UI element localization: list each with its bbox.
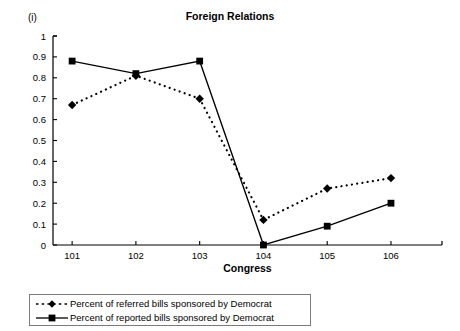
x-axis-title: Congress — [53, 262, 442, 274]
x-axis-ticks: 101102103104105106 — [64, 241, 399, 261]
y-tick-label: 0.8 — [33, 72, 46, 83]
y-tick-label: 0.1 — [33, 219, 46, 230]
x-tick-label: 105 — [319, 250, 335, 261]
data-point-square — [69, 58, 76, 65]
data-series-layer — [68, 58, 395, 249]
x-tick-label: 103 — [192, 250, 208, 261]
y-tick-label: 0.7 — [33, 93, 46, 104]
data-point-diamond — [195, 95, 203, 103]
chart-page: (i) Foreign Relations 00.10.20.30.40.50.… — [0, 0, 460, 331]
data-point-square — [133, 70, 140, 77]
series-line-2 — [72, 61, 391, 245]
data-point-square — [324, 223, 331, 230]
y-tick-label: 1 — [41, 31, 46, 42]
data-point-diamond — [387, 174, 395, 182]
series-line-1 — [72, 76, 391, 220]
legend-item-reported: Percent of reported bills sponsored by D… — [34, 311, 306, 325]
plot-area: 00.10.20.30.40.50.60.70.80.91 1011021031… — [0, 0, 460, 296]
legend-label-referred: Percent of referred bills sponsored by D… — [70, 297, 272, 311]
y-tick-label: 0.9 — [33, 51, 46, 62]
x-tick-label: 102 — [128, 250, 144, 261]
data-point-square — [260, 242, 267, 249]
data-point-diamond — [259, 216, 267, 224]
x-tick-label: 106 — [383, 250, 399, 261]
y-tick-label: 0.6 — [33, 114, 46, 125]
data-point-square — [196, 58, 203, 65]
y-tick-label: 0.5 — [33, 135, 46, 146]
legend-marker-dotted-diamond-icon — [34, 297, 70, 311]
legend-label-reported: Percent of reported bills sponsored by D… — [70, 311, 274, 325]
y-tick-label: 0.3 — [33, 177, 46, 188]
y-tick-label: 0.4 — [33, 156, 46, 167]
x-tick-label: 104 — [256, 250, 272, 261]
y-tick-label: 0 — [41, 240, 46, 251]
data-point-square — [388, 200, 395, 207]
x-tick-label: 101 — [64, 250, 80, 261]
legend-marker-solid-square-icon — [34, 311, 70, 325]
chart-legend: Percent of referred bills sponsored by D… — [29, 294, 311, 326]
legend-item-referred: Percent of referred bills sponsored by D… — [34, 297, 306, 311]
data-point-diamond — [323, 184, 331, 192]
y-tick-label: 0.2 — [33, 198, 46, 209]
data-point-diamond — [68, 101, 76, 109]
